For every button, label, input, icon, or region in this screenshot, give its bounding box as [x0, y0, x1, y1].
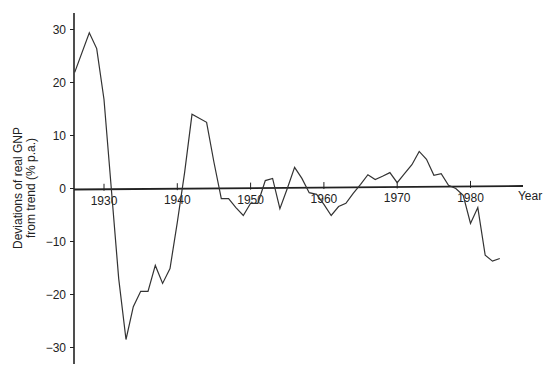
y-tick-label: 20 — [53, 76, 67, 90]
y-axis-title: Deviations of real GNPfrom trend (% p.a.… — [11, 127, 38, 249]
x-tick-label: 1940 — [164, 193, 191, 207]
x-axis: 193019401950196019701980Year — [74, 181, 542, 208]
y-tick-label: 10 — [53, 129, 67, 143]
y-tick-label: 0 — [59, 182, 66, 196]
gnp-deviation-chart: 3020100−10−20−30 19301940195019601970198… — [0, 0, 547, 379]
y-axis-title-line: from trend (% p.a.) — [24, 138, 38, 238]
x-tick-label: 1930 — [91, 194, 118, 208]
y-tick-label: −30 — [46, 341, 67, 355]
y-axis-title-line: Deviations of real GNP — [11, 127, 25, 249]
x-axis-title: Year — [518, 189, 542, 203]
y-tick-label: 30 — [53, 23, 67, 37]
y-axis: 3020100−10−20−30 — [46, 13, 74, 364]
y-tick-label: −20 — [46, 288, 67, 302]
y-tick-label: −10 — [46, 235, 67, 249]
x-tick-label: 1970 — [384, 191, 411, 205]
